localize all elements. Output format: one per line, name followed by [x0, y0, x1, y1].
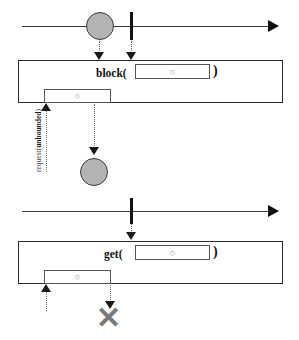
arrowhead-marble-to-block — [94, 52, 104, 60]
argument-box-get: ○ — [135, 245, 210, 260]
request-label-suffix: ) — [34, 109, 43, 112]
arrowhead-request-get — [41, 284, 51, 292]
dotted-line-request-get — [46, 291, 47, 311]
arrowhead-complete-to-get — [126, 232, 136, 240]
item-glyph-block-arg: ○ — [136, 67, 209, 76]
completion-bar-lower — [130, 198, 133, 224]
request-label: request(unbounded) — [35, 109, 43, 172]
dotted-line-block-result — [94, 104, 95, 148]
arrowhead-complete-to-block — [126, 52, 136, 60]
marble-emitted-upper — [86, 12, 114, 40]
timeline-lower-arrowhead — [268, 205, 279, 217]
operation-close-paren-get: ) — [213, 245, 218, 259]
x-mark-terminal: ✕ — [96, 303, 121, 333]
operation-label-get: get( — [104, 249, 123, 261]
item-glyph-subscriber-block: ○ — [45, 92, 110, 101]
timeline-upper-arrowhead — [268, 20, 279, 32]
dotted-line-request-unbounded — [46, 110, 47, 172]
item-glyph-subscriber-get: ○ — [45, 273, 110, 282]
item-glyph-get-arg: ○ — [136, 248, 209, 257]
operation-close-paren-block: ) — [213, 64, 218, 78]
timeline-lower — [22, 211, 269, 212]
request-label-bold: unbounded — [34, 112, 43, 148]
argument-box-block: ○ — [135, 64, 210, 79]
completion-bar-upper — [130, 12, 133, 40]
subscriber-box-block: ○ — [44, 89, 111, 103]
arrowhead-block-result — [89, 147, 99, 155]
timeline-upper — [22, 26, 269, 27]
request-label-prefix: request( — [34, 148, 43, 172]
marble-result-block — [80, 158, 108, 186]
dotted-line-get-terminal — [110, 285, 111, 302]
operation-label-block: block( — [96, 68, 127, 80]
marble-diagram: block( ○ ) ○ request(unbounded) — [0, 0, 299, 340]
subscriber-box-get: ○ — [44, 270, 111, 284]
